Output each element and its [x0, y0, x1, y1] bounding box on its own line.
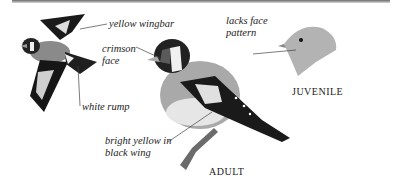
adult-bird-icon	[147, 39, 290, 170]
label-lacks-face-line1: lacks face	[226, 15, 268, 27]
label-bright-yellow-line1: bright yellow in	[105, 135, 172, 147]
caption-adult: ADULT	[209, 166, 244, 177]
caption-juvenile: JUVENILE	[292, 86, 343, 97]
flying-bird-icon	[20, 14, 97, 112]
juvenile-head-icon	[278, 27, 336, 76]
label-lacks-face-line2: pattern	[226, 27, 256, 39]
label-crimson-face-line2: face	[102, 55, 120, 67]
label-bright-yellow-line2: black wing	[105, 147, 151, 159]
label-white-rump: white rump	[82, 101, 130, 113]
label-crimson-face-line1: crimson	[102, 43, 136, 55]
goldfinch-illustration: yellow wingbar crimson face white rump b…	[0, 0, 398, 189]
label-yellow-wingbar: yellow wingbar	[109, 18, 174, 30]
